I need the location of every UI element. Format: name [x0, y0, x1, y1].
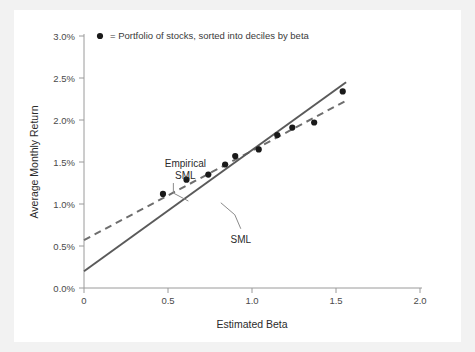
data-point	[274, 132, 280, 138]
sml-line	[84, 82, 346, 271]
x-tick-label: 1.5	[329, 295, 342, 306]
chart-figure: 0.0%0.5%1.0%1.5%2.0%2.5%3.0%00.51.01.52.…	[0, 0, 475, 352]
data-point	[205, 172, 211, 178]
y-tick-label: 1.0%	[53, 199, 75, 210]
legend-marker-icon	[97, 33, 103, 39]
x-axis-title: Estimated Beta	[216, 318, 287, 330]
sml-leader-line	[221, 203, 241, 229]
x-tick-label: 2.0	[413, 295, 426, 306]
security-market-line-chart: 0.0%0.5%1.0%1.5%2.0%2.5%3.0%00.51.01.52.…	[0, 0, 475, 352]
legend-label: = Portfolio of stocks, sorted into decil…	[110, 30, 310, 41]
x-tick-label: 0	[81, 295, 86, 306]
y-tick-label: 3.0%	[53, 31, 75, 42]
y-tick-label: 2.5%	[53, 73, 75, 84]
data-point	[289, 124, 295, 130]
y-tick-label: 0.5%	[53, 241, 75, 252]
data-point	[340, 88, 346, 94]
y-tick-label: 0.0%	[53, 283, 75, 294]
empirical-sml-annotation-line2: SML	[175, 170, 196, 181]
empirical-sml-annotation-line1: Empirical	[165, 158, 206, 169]
y-axis-title: Average Monthly Return	[28, 105, 40, 218]
x-tick-label: 0.5	[161, 295, 174, 306]
y-tick-label: 2.0%	[53, 115, 75, 126]
data-point	[256, 146, 262, 152]
empirical-sml-line	[84, 101, 346, 240]
data-point	[222, 161, 228, 167]
data-point	[232, 153, 238, 159]
data-point	[160, 191, 166, 197]
y-tick-label: 1.5%	[53, 157, 75, 168]
sml-annotation: SML	[231, 234, 252, 245]
x-tick-label: 1.0	[245, 295, 258, 306]
data-point	[311, 119, 317, 125]
